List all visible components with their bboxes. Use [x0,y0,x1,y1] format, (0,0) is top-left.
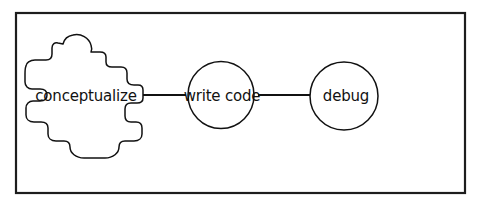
node-conceptualize-label: conceptualize [35,87,136,105]
diagram-canvas: conceptualize write code debug [0,0,482,207]
node-conceptualize[interactable]: conceptualize [25,35,143,158]
node-write-code[interactable]: write code [184,62,261,129]
flowchart-diagram: conceptualize write code debug [0,0,482,207]
node-debug[interactable]: debug [310,62,378,130]
node-write-code-label: write code [184,87,261,105]
node-debug-label: debug [323,87,369,105]
